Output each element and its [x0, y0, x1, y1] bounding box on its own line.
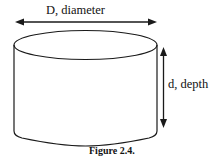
cylinder-bottom-curve [14, 131, 157, 146]
cylinder-top-ellipse [14, 31, 157, 60]
depth-arrow [160, 47, 167, 128]
diameter-label: D, diameter [46, 3, 105, 18]
figure-caption: Figure 2.4. [89, 145, 135, 156]
depth-label: d, depth [168, 77, 208, 92]
diameter-arrow [15, 19, 157, 26]
